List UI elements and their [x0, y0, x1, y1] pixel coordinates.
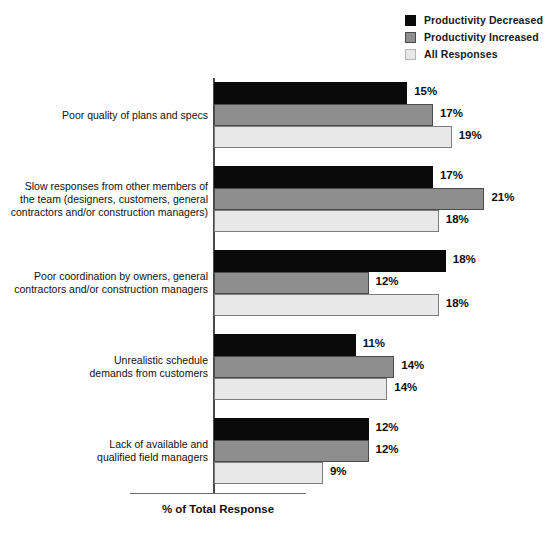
legend-item-label: Productivity Decreased — [424, 14, 543, 26]
chart-legend: Productivity DecreasedProductivity Incre… — [405, 14, 543, 60]
bar-value-label: 18% — [446, 297, 469, 309]
legend-swatch-icon — [405, 49, 416, 60]
bar-0[interactable] — [214, 334, 356, 356]
bar-group: Unrealistic schedule demands from custom… — [0, 334, 549, 400]
bar-0[interactable] — [214, 418, 369, 440]
legend-item[interactable]: All Responses — [405, 48, 543, 60]
bar-value-label: 15% — [414, 85, 437, 97]
bar-value-label: 18% — [446, 213, 469, 225]
bar-value-label: 9% — [330, 465, 347, 477]
category-label: Poor coordination by owners, general con… — [0, 270, 208, 296]
category-label: Poor quality of plans and specs — [0, 109, 208, 122]
bar-group: Lack of available and qualified field ma… — [0, 418, 549, 484]
bar-0[interactable] — [214, 82, 407, 104]
bar-0[interactable] — [214, 166, 433, 188]
value-axis-line — [130, 493, 306, 494]
legend-item[interactable]: Productivity Decreased — [405, 14, 543, 26]
bar-group: Poor coordination by owners, general con… — [0, 250, 549, 316]
bar-value-label: 14% — [401, 359, 424, 371]
bar-2[interactable] — [214, 210, 439, 232]
legend-item[interactable]: Productivity Increased — [405, 31, 543, 43]
bar-1[interactable] — [214, 272, 369, 294]
bar-1[interactable] — [214, 188, 484, 210]
x-axis-title: % of Total Response — [130, 503, 306, 515]
legend-item-label: Productivity Increased — [424, 31, 539, 43]
bar-1[interactable] — [214, 356, 394, 378]
legend-swatch-icon — [405, 15, 416, 26]
bar-value-label: 14% — [394, 381, 417, 393]
bar-1[interactable] — [214, 440, 369, 462]
bar-value-label: 12% — [376, 275, 399, 287]
bar-group: Slow responses from other members of the… — [0, 166, 549, 232]
bar-value-label: 21% — [491, 191, 514, 203]
bar-value-label: 12% — [376, 421, 399, 433]
bar-value-label: 12% — [376, 443, 399, 455]
category-label: Unrealistic schedule demands from custom… — [0, 354, 208, 380]
bar-1[interactable] — [214, 104, 433, 126]
legend-item-label: All Responses — [424, 48, 498, 60]
bar-2[interactable] — [214, 294, 439, 316]
bar-value-label: 19% — [459, 129, 482, 141]
bar-0[interactable] — [214, 250, 446, 272]
bar-value-label: 17% — [440, 169, 463, 181]
bar-2[interactable] — [214, 126, 452, 148]
bar-2[interactable] — [214, 378, 387, 400]
bar-2[interactable] — [214, 462, 323, 484]
chart-plot-area: Poor quality of plans and specs15%17%19%… — [0, 78, 549, 498]
bar-value-label: 11% — [363, 337, 385, 349]
bar-group: Poor quality of plans and specs15%17%19% — [0, 82, 549, 148]
category-label: Lack of available and qualified field ma… — [0, 438, 208, 464]
bar-value-label: 18% — [453, 253, 476, 265]
bar-value-label: 17% — [440, 107, 463, 119]
category-label: Slow responses from other members of the… — [0, 180, 208, 219]
legend-swatch-icon — [405, 32, 416, 43]
